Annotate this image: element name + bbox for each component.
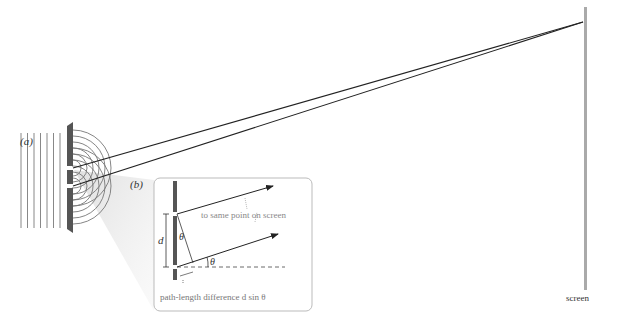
panel-a-label: (a) [20,135,33,147]
screen-bar [584,7,587,290]
plane-wavefronts [21,133,60,228]
theta-angle-label: θ [210,256,215,267]
theta-inner-label: θ [179,231,184,242]
same-point-annotation: to same point on screen [201,210,286,220]
slit-barrier [67,122,73,233]
double-slit-diagram [0,0,619,331]
panel-b-label: (b) [130,178,143,190]
rays-to-screen [73,22,583,186]
d-label: d [158,234,164,246]
screen-label: screen [566,293,589,303]
path-difference-annotation: path-length difference d sin θ [160,292,266,302]
